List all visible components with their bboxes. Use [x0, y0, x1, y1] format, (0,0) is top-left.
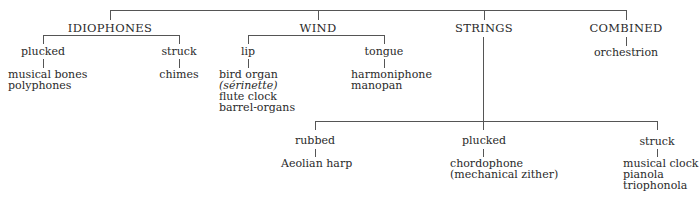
strings-connector-plucked [483, 121, 484, 130]
leaf-aeolian-harp: Aeolian harp [281, 158, 352, 170]
strings-connector-rubbed [315, 121, 316, 130]
idiophones-connector-plucked [43, 35, 44, 44]
category-idiophones: IDIOPHONES [68, 22, 152, 34]
strings-stem [483, 37, 484, 121]
category-wind: WIND [300, 22, 337, 34]
leaf-orchestrion: orchestrion [594, 47, 658, 59]
branch-strings-rubbed: rubbed [295, 135, 335, 147]
wind-connector-lip [248, 35, 249, 44]
wind-lip-stem [248, 59, 249, 68]
connector-strings [484, 10, 485, 20]
branch-idiophones-struck: struck [161, 46, 196, 58]
strings-bracket [315, 121, 658, 122]
leaf-barrel-organs: barrel-organs [219, 102, 295, 114]
category-combined: COMBINED [589, 22, 662, 34]
connector-combined [626, 10, 627, 20]
leaf-triophonola: triophonola [623, 180, 687, 192]
leaf-mechanical-zither: (mechanical zither) [450, 169, 558, 181]
wind-bracket [248, 35, 385, 36]
connector-wind [318, 10, 319, 20]
strings-plucked-stem [483, 149, 484, 157]
wind-tongue-stem [384, 59, 385, 68]
idiophones-bracket [43, 35, 180, 36]
root-connector [110, 10, 627, 11]
connector-idiophones [110, 10, 111, 20]
category-strings: STRINGS [455, 22, 513, 34]
idiophones-connector-struck [179, 35, 180, 44]
leaf-manopan: manopan [351, 80, 402, 92]
branch-strings-struck: struck [639, 136, 674, 148]
branch-wind-tongue: tongue [365, 46, 404, 58]
branch-wind-lip: lip [241, 46, 255, 58]
branch-idiophones-plucked: plucked [21, 46, 65, 58]
idiophones-plucked-stem [43, 59, 44, 68]
strings-rubbed-stem [315, 149, 316, 157]
branch-strings-plucked: plucked [462, 135, 506, 147]
strings-connector-struck [657, 121, 658, 130]
leaf-polyphones: polyphones [8, 80, 71, 92]
leaf-chimes: chimes [159, 69, 198, 81]
wind-connector-tongue [384, 35, 385, 44]
strings-struck-stem [657, 149, 658, 157]
idiophones-struck-stem [179, 59, 180, 68]
combined-stem [626, 37, 627, 46]
